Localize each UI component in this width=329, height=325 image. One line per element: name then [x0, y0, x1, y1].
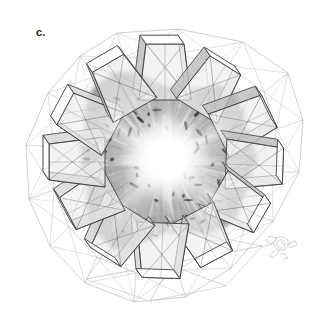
reference-molecule	[259, 236, 297, 259]
figure-panel: c.	[0, 0, 329, 325]
structure-rendering	[0, 0, 329, 325]
